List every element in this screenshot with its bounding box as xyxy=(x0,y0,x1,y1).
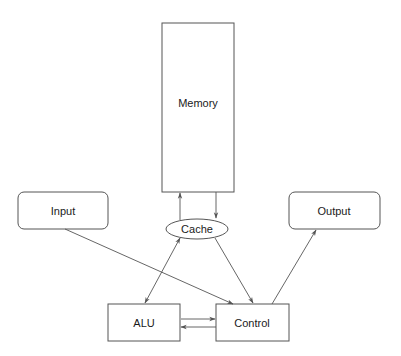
input-node: Input xyxy=(18,192,108,229)
computer-architecture-diagram: Memory Cache Input Output ALU Control xyxy=(0,0,401,356)
control-label: Control xyxy=(234,317,269,329)
output-node: Output xyxy=(289,192,380,229)
input-label: Input xyxy=(51,205,75,217)
cache-node: Cache xyxy=(166,219,228,239)
edge-cache-to-control xyxy=(215,238,253,303)
cache-label: Cache xyxy=(181,223,213,235)
edge-control-to-output xyxy=(272,230,316,304)
control-node: Control xyxy=(216,304,289,341)
memory-label: Memory xyxy=(178,97,218,109)
alu-label: ALU xyxy=(133,317,154,329)
edge-input-to-control xyxy=(65,229,233,304)
memory-node: Memory xyxy=(162,23,234,192)
output-label: Output xyxy=(317,205,350,217)
edge-cache-alu-bidirectional xyxy=(145,238,180,303)
alu-node: ALU xyxy=(108,304,180,341)
